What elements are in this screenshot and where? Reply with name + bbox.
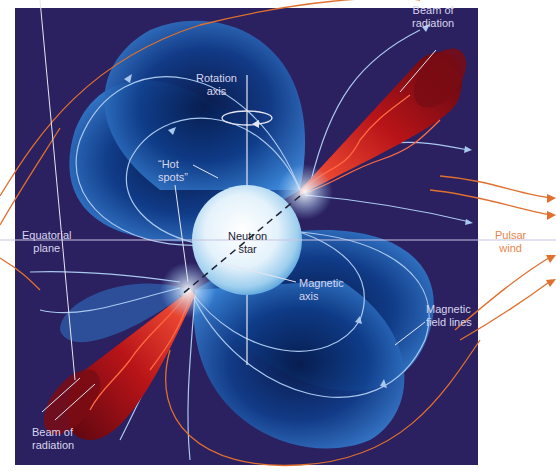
label-magnetic-axis: Magnetic axis (299, 277, 344, 302)
diagram-artwork (0, 0, 556, 471)
label-equatorial-plane: Equatorial plane (22, 229, 72, 254)
label-beam-top: Beam of radiation (412, 4, 454, 29)
pulsar-diagram: Beam of radiation Rotation axis “Hot spo… (0, 0, 556, 471)
label-beam-bottom: Beam of radiation (32, 426, 74, 451)
label-rotation-axis: Rotation axis (196, 72, 237, 97)
label-pulsar-wind: Pulsar wind (495, 229, 526, 254)
label-magnetic-field-lines: Magnetic field lines (426, 303, 472, 328)
label-hot-spots: “Hot spots” (158, 158, 188, 183)
label-neutron-star: Neutron star (228, 230, 267, 255)
